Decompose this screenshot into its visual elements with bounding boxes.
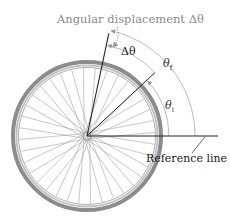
title-label: Angular displacement Δθ bbox=[56, 12, 204, 26]
spoke bbox=[90, 139, 91, 204]
spoke bbox=[79, 139, 84, 204]
initial-position-line bbox=[87, 73, 155, 136]
title-leader-dotted bbox=[113, 27, 118, 47]
spoke bbox=[72, 70, 89, 133]
spoke bbox=[46, 140, 87, 190]
spoke bbox=[41, 86, 83, 135]
final-position-line bbox=[87, 33, 109, 136]
spoke bbox=[85, 140, 102, 203]
spoke bbox=[30, 140, 86, 173]
spoke bbox=[91, 135, 148, 167]
theta-final-label: θf bbox=[163, 57, 174, 72]
spoke bbox=[60, 73, 83, 134]
angular-displacement-diagram: Angular displacement Δθ Δθ θf θi Referen… bbox=[0, 0, 230, 218]
spoke bbox=[87, 140, 125, 193]
spoke bbox=[83, 68, 84, 133]
spoke bbox=[33, 95, 86, 132]
spoke bbox=[91, 138, 114, 199]
delta-theta-label: Δθ bbox=[121, 45, 136, 58]
spoke bbox=[88, 140, 141, 177]
reference-line-label: Reference line bbox=[146, 152, 227, 165]
spoke bbox=[26, 105, 83, 137]
spoke bbox=[50, 79, 88, 132]
spoke bbox=[91, 136, 133, 185]
theta-initial-label: θi bbox=[165, 99, 175, 114]
reference-leader bbox=[192, 137, 205, 153]
